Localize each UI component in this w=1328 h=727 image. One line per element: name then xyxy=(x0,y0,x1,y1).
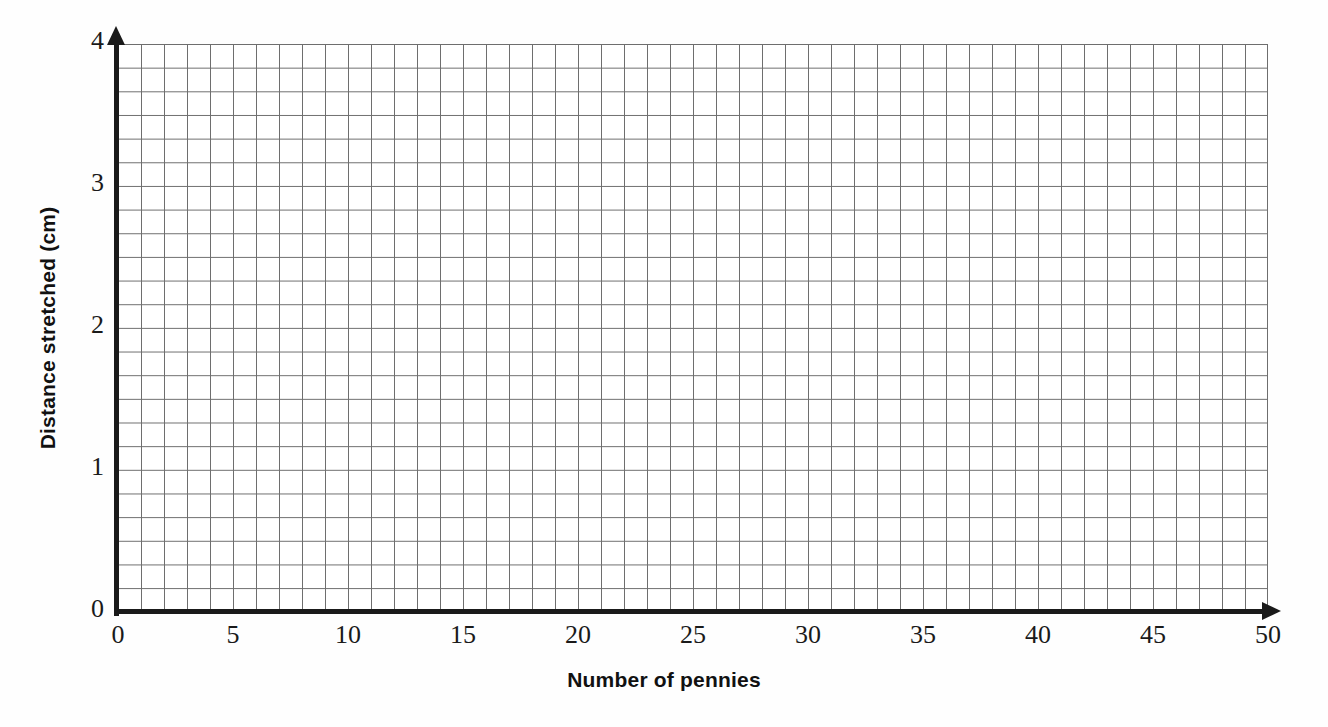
y-axis-title: Distance stretched (cm) xyxy=(31,44,65,612)
x-tick-label: 40 xyxy=(1008,620,1068,650)
x-tick-label: 35 xyxy=(893,620,953,650)
x-tick-label: 50 xyxy=(1238,620,1298,650)
x-tick-label: 15 xyxy=(433,620,493,650)
x-tick-label: 0 xyxy=(88,620,148,650)
plot-area xyxy=(118,44,1268,612)
x-tick-label: 25 xyxy=(663,620,723,650)
x-tick-label: 30 xyxy=(778,620,838,650)
grid-lines xyxy=(118,44,1268,612)
chart-page: 05101520253035404550 01234 Number of pen… xyxy=(0,0,1328,727)
y-axis-line xyxy=(114,38,119,616)
x-axis-title: Number of pennies xyxy=(0,668,1328,692)
x-axis-arrow-icon xyxy=(1262,602,1281,620)
x-tick-label: 10 xyxy=(318,620,378,650)
x-tick-label: 45 xyxy=(1123,620,1183,650)
x-tick-label: 5 xyxy=(203,620,263,650)
x-tick-label: 20 xyxy=(548,620,608,650)
grid-right-border xyxy=(1267,44,1268,612)
grid-top-border xyxy=(118,44,1268,45)
y-axis-arrow-icon xyxy=(107,26,125,45)
x-axis-line xyxy=(114,609,1267,614)
